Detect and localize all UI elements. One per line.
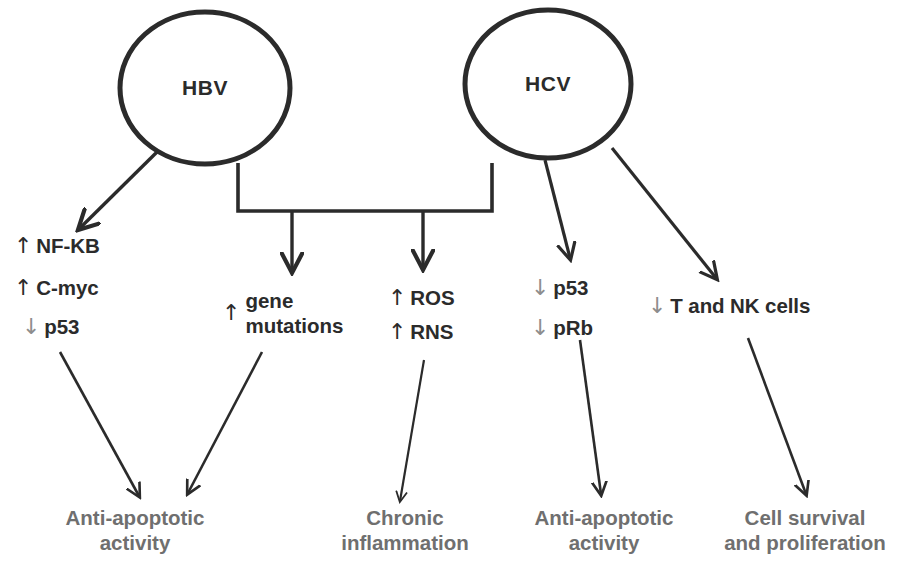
diagram-canvas: HBV HCV ↑ NF-KB ↑ C-myc ↓ p53 ↑ gene mut… (0, 0, 908, 572)
hbv-node-label: HBV (155, 76, 255, 100)
factor-prb: ↓ pRb (531, 316, 593, 340)
factor-rns-label: RNS (410, 320, 453, 344)
factor-t-nk-cells: ↓ T and NK cells (648, 294, 810, 318)
up-arrow-icon: ↑ (388, 287, 406, 309)
factor-p53-right: ↓ p53 (531, 276, 588, 300)
factor-ros-label: ROS (410, 286, 454, 310)
up-arrow-icon: ↑ (388, 321, 406, 343)
up-arrow-icon: ↑ (14, 277, 32, 299)
down-arrow-icon: ↓ (531, 317, 549, 339)
outcome-anti-apoptotic-left-line2: activity (10, 530, 260, 555)
outcome-anti-apoptotic-left-line1: Anti-apoptotic (10, 505, 260, 530)
factor-gene-mutations-line1: gene (245, 288, 343, 313)
edge-hcv-to-tnk (612, 148, 716, 278)
outcome-cell-survival-line2: and proliferation (705, 530, 905, 555)
factor-prb-label: pRb (553, 316, 593, 340)
factor-gene-mutations-line2: mutations (245, 313, 343, 338)
edge-hbv-to-nfkb (80, 152, 157, 228)
factor-cmyc: ↑ C-myc (14, 276, 99, 300)
up-arrow-icon: ↑ (14, 235, 32, 257)
hcv-node-label: HCV (498, 72, 598, 96)
outcome-anti-apoptotic-right-line2: activity (509, 530, 699, 555)
factor-t-nk-cells-label: T and NK cells (670, 294, 810, 318)
factor-rns: ↑ RNS (388, 320, 453, 344)
edge-tnk-to-cell-survival (748, 338, 806, 494)
outcome-cell-survival-line1: Cell survival (705, 505, 905, 530)
factor-nfkb: ↑ NF-KB (14, 234, 100, 258)
factor-nfkb-label: NF-KB (36, 234, 99, 258)
outcome-chronic-inflammation-line1: Chronic (285, 505, 525, 530)
edge-hcv-to-p53 (545, 160, 570, 258)
edge-prb-to-antiapoptotic-right (580, 340, 601, 494)
outcome-chronic-inflammation: Chronic inflammation (285, 505, 525, 555)
factor-cmyc-label: C-myc (36, 276, 98, 300)
outcome-anti-apoptotic-right: Anti-apoptotic activity (509, 505, 699, 555)
down-arrow-icon: ↓ (22, 316, 40, 338)
outcome-anti-apoptotic-right-line1: Anti-apoptotic (509, 505, 699, 530)
edge-genemutations-to-antiapoptotic-left (188, 352, 262, 493)
factor-p53-left-label: p53 (44, 315, 79, 339)
up-arrow-icon: ↑ (222, 302, 240, 324)
factor-gene-mutations: ↑ gene mutations (222, 288, 343, 338)
scan-artifact (300, 378, 305, 395)
down-arrow-icon: ↓ (648, 295, 666, 317)
factor-p53-right-label: p53 (553, 276, 588, 300)
edge-ros-to-chronic-inflammation (400, 360, 424, 501)
outcome-chronic-inflammation-line2: inflammation (285, 530, 525, 555)
factor-ros: ↑ ROS (388, 286, 454, 310)
outcome-anti-apoptotic-left: Anti-apoptotic activity (10, 505, 260, 555)
bracket-shared (238, 163, 492, 211)
outcome-cell-survival: Cell survival and proliferation (705, 505, 905, 555)
down-arrow-icon: ↓ (531, 277, 549, 299)
factor-p53-left: ↓ p53 (22, 315, 79, 339)
edge-p53-to-antiapoptotic-left (60, 352, 139, 496)
